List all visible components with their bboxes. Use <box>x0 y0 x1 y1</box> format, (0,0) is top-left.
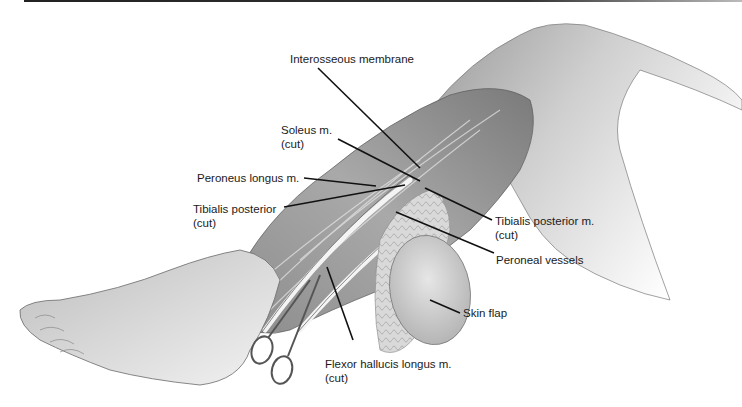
label-line: Interosseous membrane <box>290 52 414 66</box>
label-peroneus-longus: Peroneus longus m. <box>197 171 299 185</box>
label-line: (cut) <box>281 137 332 151</box>
label-line: (cut) <box>495 228 594 242</box>
label-line: (cut) <box>325 371 452 385</box>
label-line: Peroneal vessels <box>496 253 584 267</box>
label-line: Skin flap <box>463 306 507 320</box>
label-line: (cut) <box>193 216 276 230</box>
label-tibialis-posterior-left: Tibialis posterior (cut) <box>193 202 276 230</box>
label-flexor-hallucis-longus: Flexor hallucis longus m. (cut) <box>325 357 452 385</box>
label-line: Peroneus longus m. <box>197 171 299 185</box>
label-line: Flexor hallucis longus m. <box>325 357 452 371</box>
label-interosseous-membrane: Interosseous membrane <box>290 52 414 66</box>
label-line: Tibialis posterior <box>193 202 276 216</box>
label-line: Soleus m. <box>281 123 332 137</box>
label-tibialis-posterior-right: Tibialis posterior m. (cut) <box>495 214 594 242</box>
label-peroneal-vessels: Peroneal vessels <box>496 253 584 267</box>
foot-shape <box>20 250 280 385</box>
label-skin-flap: Skin flap <box>463 306 507 320</box>
label-soleus: Soleus m. (cut) <box>281 123 332 151</box>
label-line: Tibialis posterior m. <box>495 214 594 228</box>
